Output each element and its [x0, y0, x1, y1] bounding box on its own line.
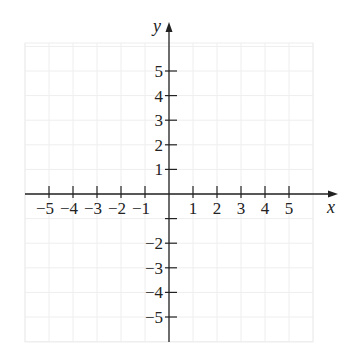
x-tick-label: 4	[261, 199, 270, 218]
y-axis-label: y	[151, 16, 161, 36]
y-tick-label: 5	[155, 62, 164, 81]
y-tick-label: 2	[155, 136, 164, 155]
axes	[25, 22, 338, 342]
x-axis-ticks: −5−4−3−2−112345	[36, 186, 293, 218]
y-tick-label: −3	[145, 259, 163, 278]
y-tick-label: −2	[145, 234, 163, 253]
coordinate-plane: −5−4−3−2−112345 54321−2−3−4−5 x y	[0, 0, 361, 363]
y-tick-label: −5	[145, 308, 163, 327]
x-axis-label: x	[326, 197, 335, 217]
y-tick-label: 1	[155, 160, 164, 179]
y-tick-label: −4	[145, 283, 164, 302]
x-tick-label: −4	[60, 199, 79, 218]
x-tick-label: 1	[189, 199, 198, 218]
y-tick-label: 4	[155, 87, 164, 106]
x-tick-label: −2	[108, 199, 126, 218]
x-tick-label: −3	[84, 199, 102, 218]
x-tick-label: −5	[36, 199, 54, 218]
y-axis-arrow-icon	[166, 22, 173, 32]
x-tick-label: 2	[213, 199, 222, 218]
x-tick-label: 5	[285, 199, 294, 218]
y-tick-label: 3	[155, 111, 164, 130]
x-tick-label: 3	[237, 199, 246, 218]
x-tick-label: −1	[132, 199, 150, 218]
